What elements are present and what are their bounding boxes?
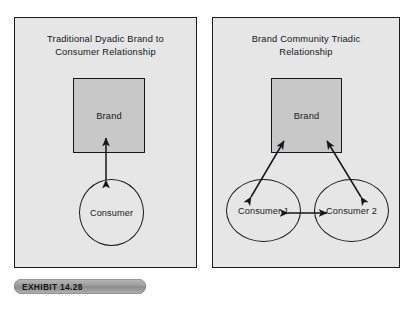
arrow-consumer2-brand xyxy=(327,141,361,197)
exhibit-tag: EXHIBIT 14.28 xyxy=(14,279,146,294)
relationship-arrows xyxy=(0,0,414,312)
exhibit-figure: Traditional Dyadic Brand to Consumer Rel… xyxy=(0,0,414,312)
arrow-consumer1-brand xyxy=(251,141,284,197)
exhibit-tag-label: EXHIBIT 14.28 xyxy=(22,281,83,291)
